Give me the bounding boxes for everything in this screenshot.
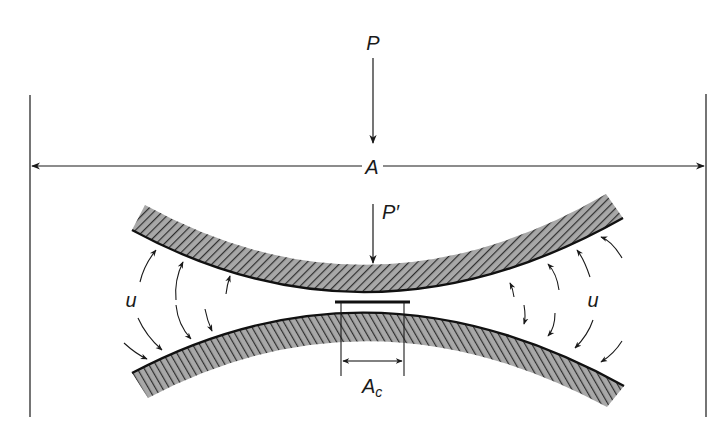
field-arrow-icon: [140, 250, 156, 282]
field-arrow-icon: [548, 264, 559, 290]
field-arrow-icon: [577, 250, 590, 277]
local-load-label: P′: [382, 201, 400, 223]
field-right-label: u: [587, 289, 598, 311]
load: P: [366, 32, 380, 143]
field-arrow-icon: [510, 283, 514, 297]
field-arrow-icon: [601, 341, 622, 362]
field-arrow-icon: [601, 237, 622, 258]
apparent-area-dimension: A: [32, 156, 704, 178]
contact-mechanics-diagram: A P P′ Ac u: [0, 0, 725, 431]
field-arrow-icon: [176, 305, 191, 339]
field-arrow-icon: [176, 262, 183, 300]
apparent-area-label: A: [364, 156, 378, 178]
contact-area-label: Ac: [361, 375, 382, 400]
field-arrow-icon: [138, 318, 162, 350]
local-load: P′: [373, 201, 400, 263]
upper-curved-plate: [132, 194, 623, 292]
field-arrow-icon: [205, 309, 212, 331]
field-arrow-icon: [575, 320, 593, 348]
field-arrow-icon: [548, 313, 555, 336]
field-left-label: u: [125, 289, 136, 311]
field-arrow-icon: [226, 276, 230, 294]
load-label: P: [366, 32, 380, 54]
field-arrow-icon: [524, 305, 525, 324]
field-arrow-icon: [124, 343, 147, 359]
